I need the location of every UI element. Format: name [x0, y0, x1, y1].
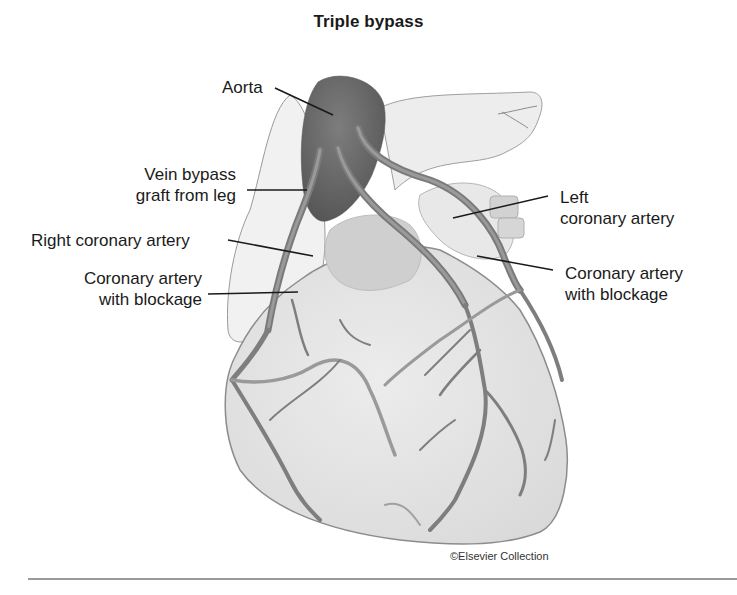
label-blockage-right-line1: Coronary artery [565, 263, 683, 284]
label-blockage-left-line1: Coronary artery [84, 268, 202, 289]
figure-title: Triple bypass [0, 12, 737, 32]
label-vein-graft: Vein bypass graft from leg [136, 164, 236, 206]
label-blockage-right: Coronary artery with blockage [565, 263, 683, 305]
aortic-arch [380, 92, 542, 190]
label-blockage-left: Coronary artery with blockage [84, 268, 202, 310]
label-left-coronary-line1: Left [560, 187, 674, 208]
label-aorta: Aorta [222, 77, 263, 98]
label-vein-graft-line1: Vein bypass [136, 164, 236, 185]
triple-bypass-diagram: Triple bypass Aorta Vein bypass graft fr… [0, 0, 737, 595]
label-left-coronary-line2: coronary artery [560, 208, 674, 229]
label-left-coronary-artery: Left coronary artery [560, 187, 674, 229]
label-right-coronary-artery: Right coronary artery [31, 230, 190, 251]
copyright-credit: ©Elsevier Collection [450, 550, 549, 562]
pulmonary-trunk [325, 215, 421, 290]
label-vein-graft-line2: graft from leg [136, 185, 236, 206]
label-blockage-right-line2: with blockage [565, 284, 683, 305]
label-blockage-left-line2: with blockage [84, 289, 202, 310]
bottom-divider [28, 578, 737, 580]
